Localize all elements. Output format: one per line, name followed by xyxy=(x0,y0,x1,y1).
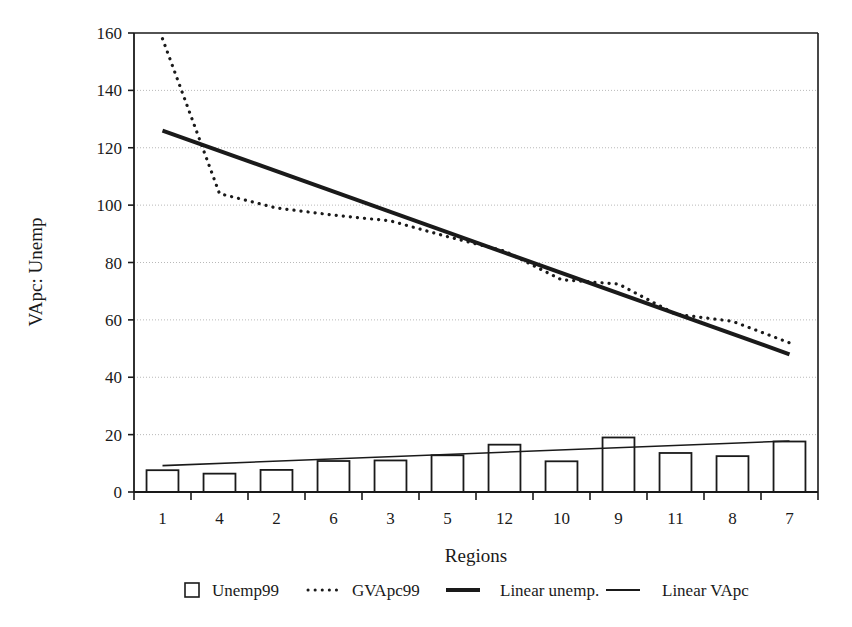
x-tick-label: 8 xyxy=(728,509,737,528)
y-tick-label: 120 xyxy=(97,139,123,158)
x-tick-label: 3 xyxy=(386,509,395,528)
y-tick-label: 40 xyxy=(105,368,122,387)
x-tick-label: 7 xyxy=(785,509,794,528)
x-tick-label: 1 xyxy=(158,509,167,528)
y-tick-label: 100 xyxy=(97,196,123,215)
y-tick-label: 140 xyxy=(97,81,123,100)
legend-label: Unemp99 xyxy=(212,581,279,600)
y-tick-label: 160 xyxy=(97,24,123,43)
x-tick-label: 12 xyxy=(496,509,513,528)
x-tick-label: 9 xyxy=(614,509,623,528)
chart-canvas: 020406080100120140160 142635121091187 VA… xyxy=(0,0,852,627)
x-tick-label: 5 xyxy=(443,509,452,528)
chart-figure: 020406080100120140160 142635121091187 VA… xyxy=(0,0,852,627)
x-axis-title: Regions xyxy=(445,545,507,566)
x-tick-label: 11 xyxy=(667,509,683,528)
y-tick-label: 0 xyxy=(114,483,123,502)
y-axis-title: VApc: Unemp xyxy=(25,218,46,327)
y-tick-label: 80 xyxy=(105,254,122,273)
chart-background xyxy=(0,0,852,627)
legend-item: Unemp99 xyxy=(185,581,279,600)
y-tick-label: 20 xyxy=(105,426,122,445)
x-tick-label: 2 xyxy=(272,509,281,528)
legend-label: Linear unemp. xyxy=(500,581,599,600)
x-tick-label: 4 xyxy=(215,509,224,528)
legend-label: Linear VApc xyxy=(662,581,749,600)
x-tick-label: 10 xyxy=(553,509,570,528)
y-tick-label: 60 xyxy=(105,311,122,330)
x-tick-label: 6 xyxy=(329,509,338,528)
legend-label: GVApc99 xyxy=(352,581,420,600)
